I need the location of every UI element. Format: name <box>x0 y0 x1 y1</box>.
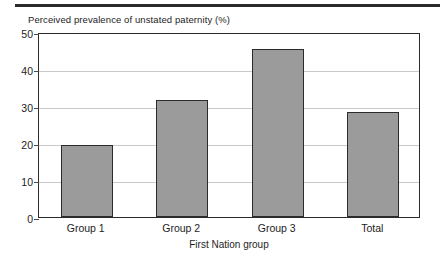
y-axis-tick <box>34 34 39 35</box>
x-axis-label-group-2: Group 2 <box>162 222 200 234</box>
gridline <box>39 108 419 109</box>
x-axis-title: First Nation group <box>38 239 420 250</box>
top-rule-divider <box>15 4 440 7</box>
y-axis-tick <box>34 145 39 146</box>
y-axis-tick <box>34 108 39 109</box>
plot-area: 01020304050 <box>38 33 420 218</box>
chart-title: Perceived prevalence of unstated paterni… <box>28 14 230 25</box>
y-axis-tick-label: 20 <box>21 139 33 151</box>
x-axis-label-group-1: Group 1 <box>67 222 105 234</box>
bar-total <box>347 112 399 217</box>
gridline <box>39 71 419 72</box>
bar-group-2 <box>156 100 208 217</box>
y-axis-tick-label: 0 <box>27 213 33 225</box>
y-axis-tick-label: 10 <box>21 176 33 188</box>
y-axis-tick-label: 40 <box>21 65 33 77</box>
y-axis-tick <box>34 219 39 220</box>
x-axis-label-group-3: Group 3 <box>258 222 296 234</box>
y-axis-tick-label: 50 <box>21 28 33 40</box>
bar-group-3 <box>252 49 304 217</box>
x-axis-label-total: Total <box>361 222 383 234</box>
plot-inner: 01020304050 <box>39 34 419 217</box>
y-axis-tick <box>34 71 39 72</box>
y-axis-tick <box>34 182 39 183</box>
figure-container: Perceived prevalence of unstated paterni… <box>0 0 446 275</box>
bar-group-1 <box>61 145 113 217</box>
y-axis-tick-label: 30 <box>21 102 33 114</box>
